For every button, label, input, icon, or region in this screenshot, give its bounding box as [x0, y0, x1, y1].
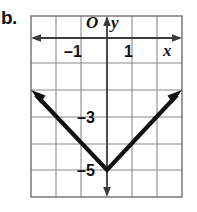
y-tick-label-neg3: –3 — [77, 110, 95, 126]
origin-label: O — [86, 14, 98, 31]
x-tick-label-pos1: 1 — [124, 44, 133, 60]
coordinate-graph — [0, 0, 197, 212]
x-axis-label: x — [163, 42, 172, 59]
y-tick-label-neg5: –5 — [77, 163, 95, 179]
y-axis-label: y — [111, 14, 119, 31]
figure-container: b. — [0, 0, 197, 212]
x-tick-label-neg1: –1 — [64, 44, 82, 60]
